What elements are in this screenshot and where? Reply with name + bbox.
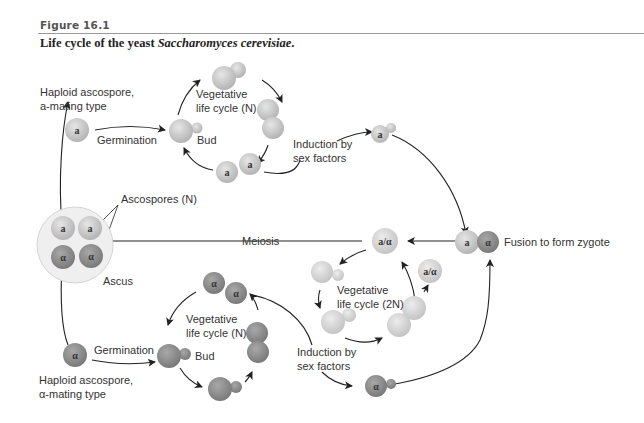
label-veg-n-bottom-2: life cycle (N) xyxy=(186,327,247,339)
label-induction-bottom-1: Induction by xyxy=(297,346,357,358)
cell-a-daughter-2: a xyxy=(239,153,261,175)
induced-a-cell: a xyxy=(371,123,396,143)
svg-text:a: a xyxy=(248,159,253,170)
diploid-budding-left xyxy=(311,261,344,283)
label-veg-n-top-2: life cycle (N) xyxy=(196,102,257,114)
label-induction-top-1: Induction by xyxy=(293,138,353,150)
zygote-fusion: a α xyxy=(455,230,499,254)
label-ascus: Ascus xyxy=(103,275,133,287)
ascospore-a-right: a xyxy=(78,216,102,240)
svg-text:α: α xyxy=(60,252,66,263)
label-meiosis: Meiosis xyxy=(242,235,280,247)
arrow-ascus-to-a xyxy=(60,102,68,225)
cell-a-dividing-right xyxy=(257,99,284,139)
diploid-budding-bottom xyxy=(321,308,356,334)
svg-text:a: a xyxy=(88,223,93,234)
svg-text:α: α xyxy=(88,251,94,262)
life-cycle-diagram: a a α α a a a a a α a/α a/α α α α α Hapl… xyxy=(0,0,644,423)
svg-text:a/α: a/α xyxy=(378,236,392,247)
label-veg-2n-2: life cycle (2N) xyxy=(337,298,404,310)
svg-text:α: α xyxy=(233,288,239,299)
diploid-cell-main: a/α xyxy=(372,228,398,254)
svg-text:a: a xyxy=(225,167,230,178)
svg-text:α: α xyxy=(373,381,379,392)
svg-text:α: α xyxy=(72,350,78,361)
label-haploid-a-1: Haploid ascospore, xyxy=(40,86,134,98)
cell-a-daughter-1: a xyxy=(216,161,238,183)
label-induction-bottom-2: sex factors xyxy=(297,360,351,372)
cell-a-budding-top xyxy=(212,62,246,90)
label-induction-top-2: sex factors xyxy=(293,152,347,164)
label-bud-bottom: Bud xyxy=(195,350,215,362)
ascospore-a-left: a xyxy=(51,216,75,240)
cell-alpha-budding-bottom xyxy=(208,377,242,401)
label-veg-n-top-1: Vegetative xyxy=(196,88,247,100)
induced-alpha-cell: α xyxy=(365,375,396,397)
label-veg-2n-1: Vegetative xyxy=(337,284,388,296)
svg-text:a/α: a/α xyxy=(423,266,437,277)
label-germination-bottom: Germination xyxy=(94,344,154,356)
cell-alpha-budding-left xyxy=(157,344,191,368)
label-haploid-alpha-1: Haploid ascospore, xyxy=(39,374,133,386)
label-haploid-alpha-2: α-mating type xyxy=(39,388,106,400)
ascospore-alpha-left: α xyxy=(51,245,75,269)
label-bud-top: Bud xyxy=(197,134,217,146)
cell-alpha-dividing-right xyxy=(246,322,269,363)
ascospore-alpha-right: α xyxy=(79,244,103,268)
cell-alpha-daughter-1: α xyxy=(203,272,225,294)
label-haploid-a-2: a-mating type xyxy=(40,100,107,112)
svg-text:α: α xyxy=(485,237,491,248)
diploid-cell-released: a/α xyxy=(418,259,442,283)
label-fusion: Fusion to form zygote xyxy=(504,236,610,248)
ascus-sac xyxy=(37,207,113,283)
haploid-a-spore: a xyxy=(65,118,89,142)
haploid-alpha-spore: α xyxy=(63,343,87,367)
svg-text:a: a xyxy=(378,129,383,140)
svg-text:a: a xyxy=(61,223,66,234)
cell-alpha-daughter-2: α xyxy=(225,282,247,304)
label-germination-top: Germination xyxy=(97,134,157,146)
svg-text:α: α xyxy=(211,278,217,289)
svg-text:a: a xyxy=(465,237,470,248)
label-ascospores: Ascospores (N) xyxy=(121,193,197,205)
label-veg-n-bottom-1: Vegetative xyxy=(186,313,237,325)
svg-text:a: a xyxy=(75,125,80,136)
